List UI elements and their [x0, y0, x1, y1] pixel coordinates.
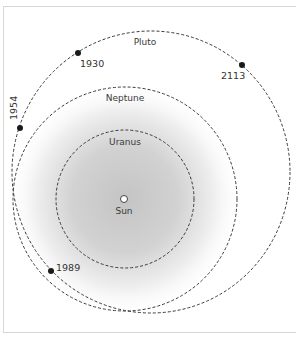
neptune-label: Neptune — [106, 93, 145, 103]
sun-label: Sun — [115, 206, 132, 216]
year-label-2113: 2113 — [221, 70, 245, 81]
pluto-position-1989-marker — [48, 268, 54, 274]
pluto-label: Pluto — [134, 37, 157, 47]
year-label-1989: 1989 — [56, 262, 80, 273]
uranus-label: Uranus — [109, 137, 141, 147]
year-label-1954: 1954 — [8, 96, 19, 120]
orbit-diagram: Pluto Neptune Uranus Sun 1930 1954 1989 … — [0, 0, 297, 337]
year-label-1930: 1930 — [80, 58, 104, 69]
pluto-position-1954-marker — [17, 125, 23, 131]
sun-icon — [121, 196, 128, 203]
pluto-position-2113-marker — [239, 62, 245, 68]
pluto-position-1930-marker — [75, 50, 81, 56]
